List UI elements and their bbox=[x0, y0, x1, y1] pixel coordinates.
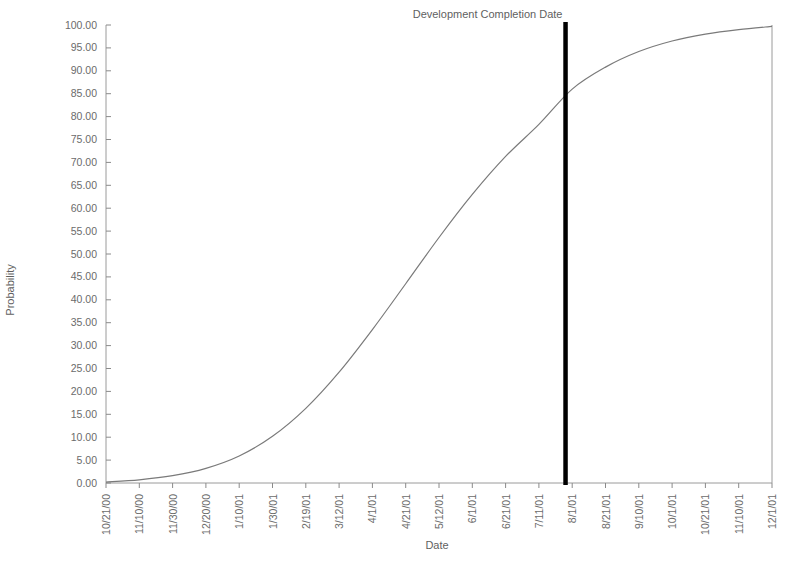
x-tick-label: 8/21/01 bbox=[600, 494, 612, 529]
probability-curve bbox=[106, 26, 772, 482]
x-tick-label: 10/1/01 bbox=[666, 494, 678, 529]
y-tick-label: 90.00 bbox=[71, 64, 97, 76]
data-series-curve bbox=[106, 26, 772, 482]
development-completion-date-label: Development Completion Date bbox=[413, 8, 563, 20]
y-tick-label: 70.00 bbox=[71, 156, 97, 168]
y-tick-label: 95.00 bbox=[71, 41, 97, 53]
y-tick-label: 85.00 bbox=[71, 87, 97, 99]
x-tick-label: 10/21/00 bbox=[100, 494, 112, 535]
y-tick-label: 65.00 bbox=[71, 179, 97, 191]
plot-frame bbox=[106, 25, 772, 483]
y-tick-label: 100.00 bbox=[65, 19, 97, 31]
x-tick-label: 2/19/01 bbox=[300, 494, 312, 529]
x-tick-label: 12/1/01 bbox=[766, 494, 778, 529]
y-tick-label: 10.00 bbox=[71, 431, 97, 443]
x-tick-label: 9/10/01 bbox=[633, 494, 645, 529]
y-tick-label: 25.00 bbox=[71, 362, 97, 374]
y-tick-label: 55.00 bbox=[71, 225, 97, 237]
x-tick-label: 5/12/01 bbox=[433, 494, 445, 529]
y-tick-label: 5.00 bbox=[77, 454, 98, 466]
y-tick-label: 40.00 bbox=[71, 293, 97, 305]
x-tick-label: 7/11/01 bbox=[533, 494, 545, 528]
x-tick-label: 4/21/01 bbox=[400, 494, 412, 529]
y-tick-label: 0.00 bbox=[77, 477, 98, 489]
chart-canvas: 0.005.0010.0015.0020.0025.0030.0035.0040… bbox=[0, 0, 795, 566]
plot-area-border bbox=[106, 25, 772, 483]
x-tick-label: 10/21/01 bbox=[699, 494, 711, 535]
x-tick-label: 4/1/01 bbox=[366, 494, 378, 523]
y-tick-label: 80.00 bbox=[71, 110, 97, 122]
probability-s-curve-chart: 0.005.0010.0015.0020.0025.0030.0035.0040… bbox=[0, 0, 795, 566]
x-tick-label: 12/20/00 bbox=[200, 494, 212, 535]
x-tick-label: 1/10/01 bbox=[233, 494, 245, 529]
x-tick-label: 11/10/00 bbox=[133, 494, 145, 534]
y-tick-label: 50.00 bbox=[71, 248, 97, 260]
y-tick-label: 35.00 bbox=[71, 316, 97, 328]
y-tick-label: 75.00 bbox=[71, 133, 97, 145]
y-axis-title: Probability bbox=[4, 264, 16, 316]
x-axis-ticks: 10/21/0011/10/0011/30/0012/20/001/10/011… bbox=[100, 483, 778, 535]
y-tick-label: 60.00 bbox=[71, 202, 97, 214]
y-axis-ticks: 0.005.0010.0015.0020.0025.0030.0035.0040… bbox=[65, 19, 111, 489]
x-tick-label: 8/1/01 bbox=[566, 494, 578, 523]
x-tick-label: 11/10/01 bbox=[733, 494, 745, 534]
x-tick-label: 3/12/01 bbox=[333, 494, 345, 529]
x-tick-label: 1/30/01 bbox=[267, 494, 279, 529]
y-tick-label: 20.00 bbox=[71, 385, 97, 397]
x-tick-label: 11/30/00 bbox=[167, 494, 179, 534]
x-tick-label: 6/1/01 bbox=[466, 494, 478, 523]
y-tick-label: 45.00 bbox=[71, 270, 97, 282]
x-tick-label: 6/21/01 bbox=[500, 494, 512, 529]
y-tick-label: 30.00 bbox=[71, 339, 97, 351]
y-tick-label: 15.00 bbox=[71, 408, 97, 420]
x-axis-title: Date bbox=[425, 539, 448, 551]
